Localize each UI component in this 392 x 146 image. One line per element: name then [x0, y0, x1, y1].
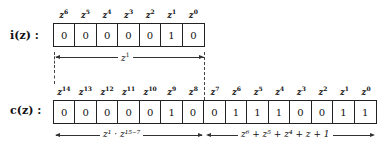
c-z-register: 000001001110011 — [53, 100, 377, 124]
c-z-bit-cell: 0 — [75, 101, 96, 123]
i-z-exponent-2: z2 — [139, 8, 161, 20]
c-z-exponent-3: z3 — [291, 85, 313, 97]
c-z-exponents: z14z13z12z11z10z9z8z7z6z5z4z3z2z1z0 — [53, 85, 377, 97]
c-z-label: c(z) : — [10, 104, 41, 117]
c-z-exponent-5: z5 — [247, 85, 269, 97]
i-z-bit-cell: 0 — [118, 24, 139, 46]
c-z-bit-cell: 1 — [355, 101, 376, 123]
c-z-bit-cell: 0 — [312, 101, 333, 123]
left-arrowhead-icon — [55, 55, 60, 59]
i-z-exponent-0: z0 — [183, 8, 205, 20]
c-z-exponent-6: z6 — [226, 85, 248, 97]
c-z-exponent-1: z1 — [334, 85, 356, 97]
right-span-arrowhead-left-icon — [206, 133, 211, 137]
c-z-bit-cell: 1 — [247, 101, 268, 123]
c-z-exponent-7: z7 — [204, 85, 226, 97]
c-z-bit-cell: 1 — [161, 101, 182, 123]
top-span-annotation: z1 — [118, 51, 133, 63]
i-z-exponents: z6z5z4z3z2z1z0 — [53, 8, 204, 20]
c-z-bit-cell: 0 — [183, 101, 204, 123]
c-z-exponent-4: z4 — [269, 85, 291, 97]
c-z-exponent-12: z12 — [96, 85, 118, 97]
i-z-bit-cell: 0 — [97, 24, 118, 46]
left-span-arrowhead-right-icon — [198, 133, 203, 137]
left-span-arrowhead-icon — [55, 133, 60, 137]
i-z-bit-cell: 0 — [183, 24, 204, 46]
c-z-exponent-2: z2 — [312, 85, 334, 97]
i-z-bit-cell: 1 — [161, 24, 182, 46]
i-z-bit-cell: 0 — [75, 24, 96, 46]
c-z-bit-cell: 1 — [226, 101, 247, 123]
c-z-bit-cell: 0 — [54, 101, 75, 123]
c-z-bit-cell: 0 — [118, 101, 139, 123]
c-z-exponent-14: z14 — [53, 85, 75, 97]
left-dashed-guide-lower — [54, 70, 55, 84]
right-span-annotation: z⁶ + z⁵ + z⁴ + z + 1 — [238, 129, 333, 139]
c-z-bit-cell: 1 — [333, 101, 354, 123]
c-z-bit-cell: 0 — [140, 101, 161, 123]
i-z-bit-cell: 0 — [54, 24, 75, 46]
c-z-exponent-9: z9 — [161, 85, 183, 97]
i-z-exponent-1: z1 — [161, 8, 183, 20]
i-z-label: i(z) : — [10, 29, 39, 42]
right-span-arrowhead-icon — [370, 133, 375, 137]
i-z-register: 0000010 — [53, 23, 205, 47]
c-z-exponent-10: z10 — [139, 85, 161, 97]
c-z-bit-cell: 0 — [204, 101, 225, 123]
c-z-bit-cell: 1 — [269, 101, 290, 123]
i-z-exponent-4: z4 — [96, 8, 118, 20]
z-exponent: 1 — [126, 51, 130, 58]
c-z-bit-cell: 0 — [290, 101, 311, 123]
c-z-exponent-11: z11 — [118, 85, 140, 97]
c-z-exponent-0: z0 — [355, 85, 377, 97]
i-z-exponent-6: z6 — [53, 8, 75, 20]
left-span-annotation: z¹ · z¹⁵⁻⁷ — [100, 129, 143, 139]
i-z-bit-cell: 0 — [140, 24, 161, 46]
c-z-exponent-13: z13 — [75, 85, 97, 97]
c-z-exponent-8: z8 — [183, 85, 205, 97]
i-z-exponent-3: z3 — [118, 8, 140, 20]
i-z-exponent-5: z5 — [75, 8, 97, 20]
c-z-bit-cell: 0 — [97, 101, 118, 123]
